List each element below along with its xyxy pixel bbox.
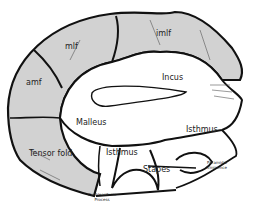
label-pyramidal-eminence: Pyramidal Eminence	[207, 160, 227, 170]
isthmus-right-outline	[176, 130, 236, 188]
label-amf: amf	[26, 79, 42, 87]
label-malleus: Malleus	[76, 119, 106, 127]
pyramidal-line2: Eminence	[207, 165, 227, 170]
divider-amf-tensor	[10, 117, 60, 118]
label-cochleariform-process: Cochleariform Process	[88, 192, 116, 202]
label-stapes: Stapes	[143, 166, 170, 174]
label-incus: Incus	[162, 74, 183, 82]
label-tensor-fold: Tensor fold	[29, 150, 72, 158]
middle-ear-diagram: imlf mlf amf Incus Malleus Tensor fold I…	[0, 0, 256, 206]
label-imlf: imlf	[156, 30, 171, 38]
cochleariform-process	[99, 146, 101, 186]
label-mlf: mlf	[65, 43, 78, 51]
diagram-drawing	[0, 0, 256, 206]
cochleariform-line2: Process	[94, 197, 109, 202]
label-isthmus-left: Isthmus	[106, 149, 138, 157]
label-isthmus-right: Isthmus	[186, 126, 218, 134]
